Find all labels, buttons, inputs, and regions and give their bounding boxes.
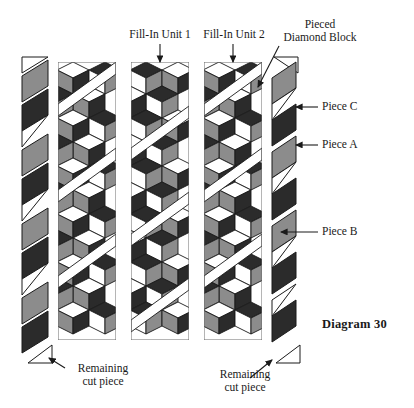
label-remaining-cut-piece-right: Remaining cut piece (190, 368, 300, 394)
left-cut-strip (22, 57, 48, 353)
pieced-diamond-block-line2: Diamond Block (283, 31, 356, 43)
label-diagram-number: Diagram 30 (322, 318, 387, 331)
fill-in-unit-1-panel (114, 62, 194, 340)
pieced-diamond-block-line1: Pieced (305, 18, 336, 30)
diagram-artwork (0, 0, 414, 408)
remaining-cut-piece-right-line2: cut piece (224, 381, 265, 393)
label-piece-c: Piece C (322, 100, 357, 113)
left-remaining-cut-piece-shape (28, 345, 52, 363)
remaining-cut-piece-left-line1: Remaining (78, 362, 128, 374)
label-remaining-cut-piece-left: Remaining cut piece (48, 362, 158, 388)
pieced-diamond-panel-1 (41, 62, 121, 340)
right-remaining-cut-piece-shape (276, 345, 300, 363)
label-piece-a: Piece A (322, 138, 357, 151)
fill-in-unit-2-panel (187, 62, 267, 340)
right-cut-strip (272, 57, 298, 342)
remaining-cut-piece-left-line2: cut piece (82, 375, 123, 387)
label-piece-b: Piece B (322, 225, 357, 238)
quilting-diagram: Fill-In Unit 1 Fill-In Unit 2 Pieced Dia… (0, 0, 414, 408)
remaining-cut-piece-right-line1: Remaining (220, 368, 270, 380)
label-pieced-diamond-block: Pieced Diamond Block (258, 18, 382, 44)
